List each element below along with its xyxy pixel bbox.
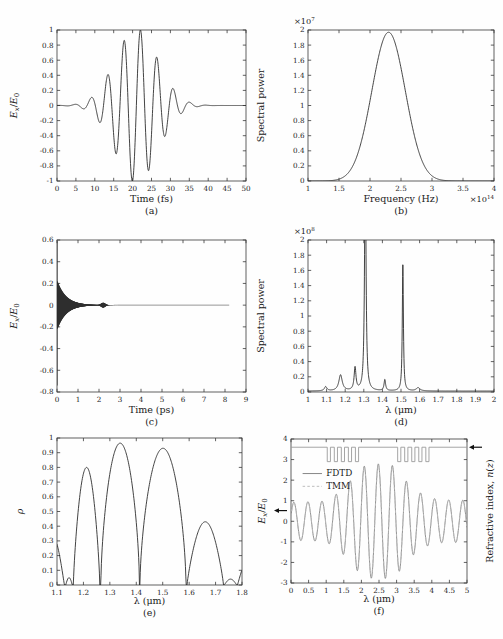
plot-frame: [291, 439, 467, 583]
x-tick-label: 0.5: [303, 586, 315, 595]
y-tick-label: 0.6: [42, 235, 54, 244]
axis-ticks: [291, 439, 467, 583]
y-tick-label: -0.6: [40, 146, 54, 155]
left-axis-arrow-icon: [274, 508, 279, 513]
x-tick-label: 9: [244, 395, 249, 404]
y-tick-label: 0.6: [42, 492, 54, 501]
y-tick-label: 0.4: [42, 257, 54, 266]
x-tick-label: 1.1: [321, 395, 332, 404]
y-tick-label: 1: [49, 433, 54, 442]
legend-label: TMM: [326, 481, 350, 491]
y-tick-label: -0.8: [40, 161, 54, 170]
panel-d: 11.11.21.31.41.51.61.71.81.9200.20.40.60…: [251, 213, 503, 426]
y-axis-label: Ex/E0: [256, 498, 269, 524]
x-tick-label: 7: [202, 395, 207, 404]
y-tick-label: 3: [283, 455, 288, 464]
y-tick-label: 1.8: [293, 251, 305, 260]
x-tick-label: 40: [204, 184, 214, 193]
x-tick-label: 4: [492, 184, 497, 193]
x-tick-label: 2: [492, 395, 497, 404]
y-axis-label: Ex/E0: [8, 303, 21, 329]
x-tick-label: 1.8: [451, 395, 463, 404]
y-tick-label: -0.2: [40, 322, 54, 331]
plot-frame: [57, 240, 246, 392]
series-group: [308, 32, 494, 181]
y-tick-label: -0.8: [40, 387, 54, 396]
x-tick-label: 1: [324, 586, 329, 595]
x-tick-label: 10: [90, 184, 100, 193]
y-tick-label: 0.6: [42, 56, 54, 65]
y-tick-label: 0.2: [293, 161, 304, 170]
x-tick-label: 0: [289, 586, 294, 595]
chart-c-svg: 0123456789-0.8-0.6-0.4-0.200.20.40.6Time…: [0, 213, 251, 426]
x-tick-label: 1: [306, 395, 311, 404]
series-refractive-index-profile: [291, 447, 467, 461]
y-tick-label: 0.9: [42, 448, 54, 457]
x-tick-label: 0: [55, 184, 60, 193]
x-tick-label: 35: [185, 184, 195, 193]
x-tick-label: 4: [430, 586, 435, 595]
y-tick-label: 0.8: [42, 41, 54, 50]
y-tick-label: 0.2: [42, 86, 53, 95]
y-tick-label: 0.1: [42, 566, 53, 575]
x-tick-label: 6: [181, 395, 186, 404]
panel-f: 00.511.522.533.544.55-3-2-101234λ (μm)Ex…: [251, 426, 503, 639]
x-tick-label: 30: [166, 184, 176, 193]
x-axis-label: λ (μm): [134, 595, 166, 606]
chart-b-svg: 11.522.533.5400.20.40.60.811.21.41.61.82…: [251, 0, 503, 213]
x-tick-label: 5: [160, 395, 165, 404]
series-spectrum: [308, 32, 494, 181]
y-tick-label: -0.6: [40, 366, 54, 375]
right-axis-arrow-icon: [469, 445, 474, 450]
figure-grid: 05101520253035404550-1-0.8-0.6-0.4-0.200…: [0, 0, 503, 639]
y-tick-label: 1: [49, 25, 54, 34]
x-axis-label: λ (μm): [385, 404, 417, 415]
y-tick-label: 0.4: [293, 357, 305, 366]
y-tick-label: 1.2: [293, 296, 304, 305]
x-axis-label: Frequency (Hz): [363, 193, 438, 204]
x-tick-label: 1.5: [333, 184, 345, 193]
x-tick-label: 1.7: [432, 395, 444, 404]
y-tick-label: 1.4: [293, 281, 305, 290]
series-group: [291, 447, 467, 578]
y-tick-label: 4: [283, 434, 288, 443]
chart-d-svg: 11.11.21.31.41.51.61.71.81.9200.20.40.60…: [251, 213, 503, 426]
panel-caption: (f): [374, 605, 385, 616]
x-tick-label: 0: [55, 395, 60, 404]
x-tick-label: 1.8: [236, 588, 248, 597]
panel-c: 0123456789-0.8-0.6-0.4-0.200.20.40.6Time…: [0, 213, 251, 426]
y-tick-label: 0: [49, 301, 54, 310]
chart-e-svg: 1.11.21.31.41.51.61.71.800.10.20.30.40.5…: [0, 426, 251, 639]
x-tick-label: 8: [223, 395, 228, 404]
x-tick-label: 3: [394, 586, 399, 595]
x-tick-label: 3: [430, 184, 435, 193]
y-tick-label: 0: [49, 580, 54, 589]
axis-ticks: [57, 240, 246, 392]
y-tick-label: 0: [300, 387, 305, 396]
x-tick-label: 25: [147, 184, 157, 193]
x-exponent-label: ×1014: [470, 194, 495, 204]
chart-a-svg: 05101520253035404550-1-0.8-0.6-0.4-0.200…: [0, 0, 251, 213]
x-tick-label: 5: [465, 586, 470, 595]
y-tick-label: 0.4: [42, 522, 54, 531]
x-tick-label: 1: [306, 184, 311, 193]
y-tick-label: 2: [300, 235, 305, 244]
x-tick-label: 3: [118, 395, 123, 404]
series-ringdown: [57, 241, 229, 385]
x-tick-label: 1: [76, 395, 81, 404]
x-tick-label: 3.5: [408, 586, 420, 595]
y-tick-label: 1: [300, 101, 305, 110]
panel-e: 1.11.21.31.41.51.61.71.800.10.20.30.40.5…: [0, 426, 251, 639]
y-tick-label: 2: [283, 476, 288, 485]
x-tick-label: 15: [109, 184, 119, 193]
y-tick-label: -0.4: [40, 344, 54, 353]
x-tick-label: 3.5: [457, 184, 469, 193]
x-tick-label: 4: [139, 395, 144, 404]
x-tick-label: 5: [74, 184, 79, 193]
y-tick-label: 0.8: [293, 116, 305, 125]
x-axis-label: λ (μm): [363, 593, 395, 604]
series-fdtd-field: [291, 464, 467, 579]
y-tick-label: -1: [280, 537, 287, 546]
y-tick-label: 0.7: [42, 478, 54, 487]
y-axis-label-right: Refractive index, n(z): [484, 459, 495, 563]
